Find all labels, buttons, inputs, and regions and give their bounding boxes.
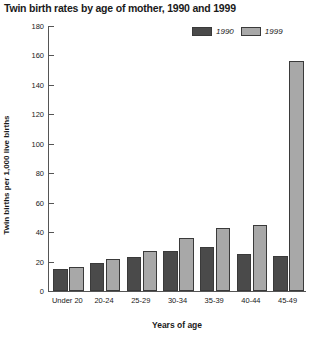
bar-group <box>200 26 231 291</box>
bar-1999-20-24 <box>106 259 121 291</box>
y-tick-label: 100 <box>14 139 44 148</box>
bar-group <box>90 26 121 291</box>
bar-1990-25-29 <box>127 257 142 291</box>
x-tick-label: 45-49 <box>269 296 306 305</box>
y-tick-label: 120 <box>14 110 44 119</box>
x-tick-label: 35-39 <box>196 296 233 305</box>
x-tick-label: Under 20 <box>49 296 86 305</box>
bar-1999-35-39 <box>216 228 231 291</box>
bar-1990-20-24 <box>90 263 105 291</box>
bar-1999-30-34 <box>179 238 194 291</box>
y-tick-label: 20 <box>14 257 44 266</box>
y-tick-label: 80 <box>14 169 44 178</box>
bar-1990-40-44 <box>237 254 252 291</box>
bars-layer: Under 2020-2425-2930-3435-3940-4445-49 <box>49 26 306 292</box>
bar-1990-30-34 <box>163 251 178 291</box>
x-axis-title: Years of age <box>48 320 306 330</box>
y-tick-label: 60 <box>14 198 44 207</box>
y-axis-title: Twin births per 1,000 live births <box>2 95 11 255</box>
bar-group <box>163 26 194 291</box>
x-tick-label: 30-34 <box>159 296 196 305</box>
x-tick-label: 20-24 <box>86 296 123 305</box>
plot-area: 020406080100120140160180 Under 2020-2425… <box>48 26 306 292</box>
chart-title: Twin birth rates by age of mother, 1990 … <box>4 2 236 14</box>
y-tick-label: 40 <box>14 228 44 237</box>
bar-1999-under-20 <box>69 267 84 291</box>
x-tick-label: 25-29 <box>122 296 159 305</box>
bar-1990-under-20 <box>53 269 68 291</box>
y-tick-label: 180 <box>14 22 44 31</box>
y-tick-label: 0 <box>14 287 44 296</box>
bar-1999-40-44 <box>253 225 268 291</box>
bar-1990-45-49 <box>273 256 288 291</box>
x-tick-label: 40-44 <box>233 296 270 305</box>
chart-container: Twin birth rates by age of mother, 1990 … <box>0 0 313 349</box>
bar-1990-35-39 <box>200 247 215 291</box>
bar-1999-45-49 <box>289 61 304 291</box>
bar-group <box>53 26 84 291</box>
y-tick-label: 160 <box>14 51 44 60</box>
bar-1999-25-29 <box>143 251 158 291</box>
bar-group <box>237 26 268 291</box>
bar-group <box>127 26 158 291</box>
bar-group <box>273 26 304 291</box>
y-tick-label: 140 <box>14 80 44 89</box>
